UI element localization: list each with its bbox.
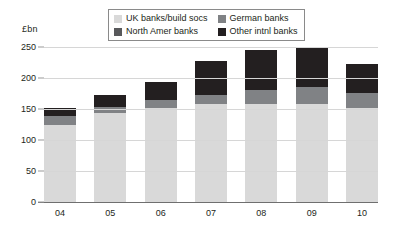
bar-segment[interactable] bbox=[296, 87, 328, 104]
bar-segment[interactable] bbox=[346, 93, 378, 108]
legend-item-label: German banks bbox=[230, 13, 289, 24]
chart-legend: UK banks/build socsGerman banksNorth Ame… bbox=[108, 9, 305, 41]
x-axis-tick-label: 08 bbox=[241, 208, 281, 218]
bar-series-container bbox=[44, 40, 378, 202]
plot-area bbox=[44, 40, 378, 203]
y-axis-tick-label: 200 bbox=[2, 73, 36, 83]
legend-item-label: North Amer banks bbox=[126, 26, 198, 37]
bar-segment[interactable] bbox=[145, 108, 177, 202]
bar-segment[interactable] bbox=[145, 82, 177, 100]
gridline bbox=[44, 171, 378, 172]
x-axis-tick-label: 05 bbox=[90, 208, 130, 218]
bar-segment[interactable] bbox=[245, 104, 277, 202]
x-axis-tick-label: 06 bbox=[141, 208, 181, 218]
gridline bbox=[44, 140, 378, 141]
bar-segment[interactable] bbox=[195, 104, 227, 202]
legend-item-label: UK banks/build socs bbox=[126, 13, 208, 24]
bar-segment[interactable] bbox=[245, 50, 277, 91]
legend-item[interactable]: North Amer banks bbox=[114, 26, 208, 37]
legend-swatch-german bbox=[218, 15, 226, 23]
y-axis-tick-label: 0 bbox=[2, 197, 36, 207]
bar-segment[interactable] bbox=[44, 125, 76, 203]
y-axis-tick-label: 100 bbox=[2, 135, 36, 145]
bar-segment[interactable] bbox=[346, 108, 378, 202]
y-axis-tick-label: 250 bbox=[2, 42, 36, 52]
bar-segment[interactable] bbox=[145, 100, 177, 107]
legend-item[interactable]: Other intnl banks bbox=[218, 26, 298, 37]
y-axis-tick-label: 50 bbox=[2, 166, 36, 176]
bar-segment[interactable] bbox=[44, 116, 76, 124]
bar-segment[interactable] bbox=[296, 104, 328, 202]
gridline bbox=[44, 78, 378, 79]
bar-segment[interactable] bbox=[245, 90, 277, 104]
x-axis-tick-label: 07 bbox=[191, 208, 231, 218]
x-axis-tick-label: 04 bbox=[40, 208, 80, 218]
legend-swatch-uk bbox=[114, 15, 122, 23]
x-axis-tick-label: 10 bbox=[342, 208, 382, 218]
x-axis-line bbox=[38, 202, 378, 203]
bar-segment[interactable] bbox=[195, 95, 227, 104]
legend-item[interactable]: UK banks/build socs bbox=[114, 13, 208, 24]
y-axis-unit-label: £bn bbox=[22, 24, 38, 34]
x-axis-tick-label: 09 bbox=[292, 208, 332, 218]
gridline bbox=[44, 47, 378, 48]
bar-segment[interactable] bbox=[94, 113, 126, 202]
legend-item[interactable]: German banks bbox=[218, 13, 298, 24]
gridline bbox=[44, 109, 378, 110]
bar-segment[interactable] bbox=[296, 48, 328, 86]
legend-swatch-other-intnl bbox=[218, 28, 226, 36]
stacked-bar-chart: £bn 050100150200250 04050607080910 UK ba… bbox=[0, 0, 400, 229]
legend-swatch-north-amer bbox=[114, 28, 122, 36]
y-axis-tick-label: 150 bbox=[2, 104, 36, 114]
bar-segment[interactable] bbox=[94, 95, 126, 107]
legend-item-label: Other intnl banks bbox=[230, 26, 298, 37]
